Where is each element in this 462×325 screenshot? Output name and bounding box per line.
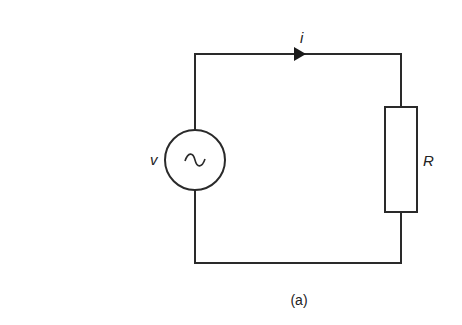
circuit-diagram: v i R (a) <box>0 0 462 325</box>
current-arrow-icon <box>294 47 306 61</box>
figure-caption: (a) <box>290 292 307 308</box>
resistor <box>385 107 417 212</box>
resistor-label: R <box>423 152 434 169</box>
ac-voltage-source <box>165 130 225 190</box>
current-label: i <box>300 29 304 46</box>
wire-top <box>195 54 401 130</box>
wire-bottom <box>195 190 401 263</box>
source-label: v <box>150 151 159 168</box>
